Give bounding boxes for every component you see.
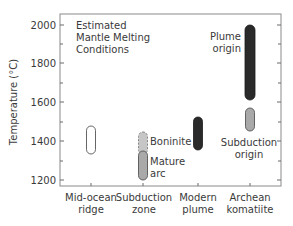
label-plume-origin-2: origin <box>213 43 241 54</box>
svg-text:Conditions: Conditions <box>76 44 129 55</box>
label-mature-arc-2: arc <box>150 168 166 179</box>
xlabel-subduction-1: Subduction <box>116 192 172 203</box>
xlabel-modern-1: Modern <box>179 192 217 203</box>
ytick-1800: 1800 <box>31 58 56 69</box>
ytick-1600: 1600 <box>31 97 56 108</box>
xlabel-subduction-2: zone <box>132 204 156 215</box>
mantle-melting-chart: 2000 1800 1600 1400 1200 Temperature (°C… <box>0 0 293 226</box>
xlabel-mid-ocean-2: ridge <box>78 204 104 215</box>
xlabel-mid-ocean-1: Mid-ocean <box>65 192 117 203</box>
ytick-1200: 1200 <box>31 175 56 186</box>
bar-annotations: Boninite Mature arc Plume origin Subduct… <box>150 31 277 179</box>
xlabel-modern-2: plume <box>182 204 213 215</box>
ytick-1400: 1400 <box>31 136 56 147</box>
y-axis-label: Temperature (°C) <box>8 59 19 146</box>
xlabel-archean-2: komatiite <box>227 204 274 215</box>
chart-title: Estimated Mantle Melting Conditions <box>76 20 150 55</box>
xlabel-archean-1: Archean <box>229 192 270 203</box>
label-plume-origin-1: Plume <box>210 31 241 42</box>
y-tick-labels: 2000 1800 1600 1400 1200 <box>31 20 56 186</box>
svg-text:Estimated: Estimated <box>76 20 127 31</box>
label-boninite: Boninite <box>150 136 191 147</box>
label-subduction-origin-2: origin <box>235 149 263 160</box>
bar-modern-plume <box>194 117 203 150</box>
bar-plume-origin <box>245 25 255 100</box>
label-mature-arc-1: Mature <box>150 156 185 167</box>
bar-mature-arc <box>139 151 148 180</box>
svg-text:Mantle Melting: Mantle Melting <box>76 32 150 43</box>
ytick-2000: 2000 <box>31 20 56 31</box>
label-subduction-origin-1: Subduction <box>221 137 277 148</box>
x-category-labels: Mid-ocean ridge Subduction zone Modern p… <box>65 192 273 215</box>
bar-subduction-origin <box>246 108 255 131</box>
bar-mid-ocean-ridge <box>87 126 96 154</box>
